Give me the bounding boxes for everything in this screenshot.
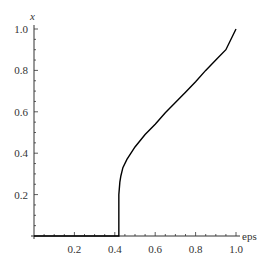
x-axis-label: eps [242,230,257,242]
x-tick-label: 0.6 [148,243,162,255]
data-curve [34,29,236,236]
y-tick-label: 0.2 [14,189,28,201]
y-axis-label: x [29,10,35,22]
chart: 0.20.40.60.81.00.20.40.60.81.0 eps x [0,0,271,265]
x-tick-label: 1.0 [229,243,243,255]
y-tick-label: 0.6 [14,106,28,118]
y-tick-label: 0.4 [14,147,28,159]
y-tick-label: 1.0 [14,23,28,35]
x-tick-label: 0.2 [68,243,82,255]
tick-labels: 0.20.40.60.81.00.20.40.60.81.0 [14,23,243,255]
y-tick-label: 0.8 [14,64,28,76]
ticks [34,29,236,236]
x-tick-label: 0.4 [108,243,122,255]
axes [31,25,240,239]
x-tick-label: 0.8 [189,243,203,255]
